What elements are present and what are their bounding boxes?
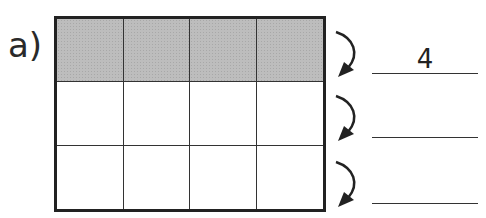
grid-cell xyxy=(190,146,257,209)
grid-cell-shaded xyxy=(124,19,191,82)
exercise-label: a) xyxy=(8,28,42,62)
curved-arrow-icon xyxy=(330,28,370,80)
curved-arrow-icon xyxy=(330,92,370,144)
grid-cell xyxy=(124,82,191,145)
answer-line-2[interactable] xyxy=(372,108,478,138)
grid-cell xyxy=(57,146,124,209)
grid-cell xyxy=(124,146,191,209)
grid-cell-shaded xyxy=(57,19,124,82)
grid-cell-shaded xyxy=(190,19,257,82)
answer-line-1[interactable]: 4 xyxy=(372,44,478,74)
grid-cell xyxy=(190,82,257,145)
grid-cell xyxy=(57,82,124,145)
grid-cell-shaded xyxy=(257,19,324,82)
curved-arrow-icon xyxy=(330,158,370,210)
answer-line-3[interactable] xyxy=(372,174,478,204)
fraction-grid xyxy=(54,16,326,212)
grid-cell xyxy=(257,146,324,209)
grid-cell xyxy=(257,82,324,145)
